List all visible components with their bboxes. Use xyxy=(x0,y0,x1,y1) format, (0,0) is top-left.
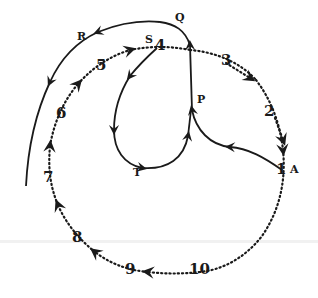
point-10-label: 10 xyxy=(189,262,210,277)
letter-t-label: T xyxy=(133,167,141,178)
letter-a-label: A xyxy=(290,164,299,175)
letter-p-label: P xyxy=(197,94,205,105)
point-3-label: 3 xyxy=(221,53,231,68)
point-4-label: 4 xyxy=(155,38,165,53)
point-9-label: 9 xyxy=(125,262,135,277)
point-2-label: 2 xyxy=(264,104,274,119)
point-7-label: 7 xyxy=(43,170,53,185)
letter-r-label: R xyxy=(77,31,86,42)
dotted-circle-path xyxy=(49,47,283,274)
letter-s-label: S xyxy=(145,34,153,45)
point-8-label: 8 xyxy=(72,230,82,245)
letter-q-label: Q xyxy=(175,12,185,23)
loop-path-stp xyxy=(114,48,191,168)
point-6-label: 6 xyxy=(56,106,66,121)
point-5-label: 5 xyxy=(96,58,106,73)
point-1-label: 1 xyxy=(276,162,286,177)
